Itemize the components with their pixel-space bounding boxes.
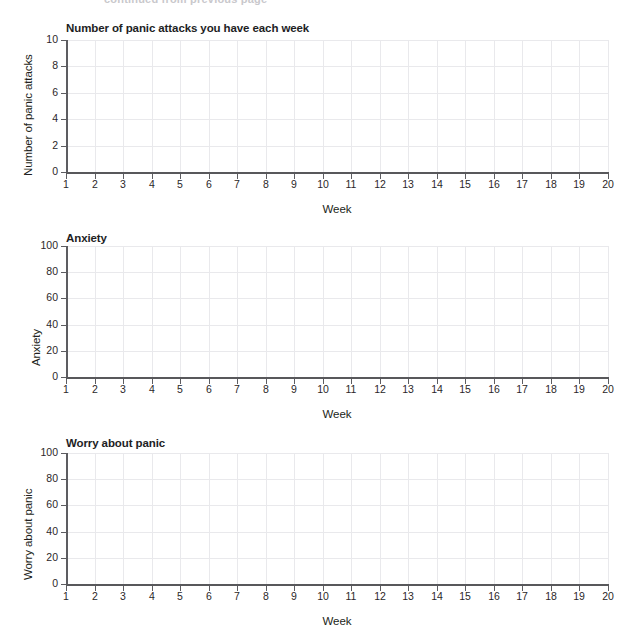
x-tick-label: 2	[83, 383, 107, 395]
y-tick-mark	[61, 532, 66, 533]
gridline-horizontal	[66, 40, 608, 41]
gridline-horizontal	[66, 532, 608, 533]
gridline-vertical	[437, 246, 438, 377]
y-tick-label: 0	[18, 577, 58, 589]
x-axis-label: Week	[66, 203, 608, 215]
gridline-vertical	[380, 453, 381, 584]
y-tick-mark	[61, 558, 66, 559]
x-tick-label: 8	[254, 178, 278, 190]
gridline-horizontal	[66, 272, 608, 273]
y-tick-mark	[61, 351, 66, 352]
x-tick-label: 15	[453, 590, 477, 602]
y-tick-mark	[61, 453, 66, 454]
gridline-vertical	[152, 40, 153, 172]
gridline-vertical	[408, 246, 409, 377]
gridline-vertical	[266, 40, 267, 172]
x-tick-label: 14	[425, 590, 449, 602]
gridline-vertical	[437, 40, 438, 172]
x-tick-label: 19	[567, 590, 591, 602]
panic-tracking-worksheet: { "page": { "clipped_header_text": "cont…	[0, 0, 629, 628]
x-tick-label: 7	[225, 178, 249, 190]
gridline-vertical	[551, 40, 552, 172]
gridline-vertical	[123, 40, 124, 172]
gridline-vertical	[522, 453, 523, 584]
gridline-vertical	[294, 453, 295, 584]
y-tick-mark	[61, 325, 66, 326]
gridline-vertical	[608, 246, 609, 377]
y-tick-label: 80	[18, 265, 58, 277]
y-tick-mark	[61, 93, 66, 94]
x-tick-label: 3	[111, 383, 135, 395]
y-tick-mark	[61, 246, 66, 247]
gridline-vertical	[180, 40, 181, 172]
y-axis-spine	[66, 40, 68, 174]
x-tick-label: 15	[453, 178, 477, 190]
x-tick-label: 6	[197, 383, 221, 395]
gridline-vertical	[266, 453, 267, 584]
plot-area	[66, 40, 608, 172]
gridline-horizontal	[66, 453, 608, 454]
y-tick-label: 100	[18, 239, 58, 251]
gridline-vertical	[180, 246, 181, 377]
y-tick-label: 10	[18, 33, 58, 45]
x-tick-label: 11	[339, 383, 363, 395]
y-tick-mark	[61, 505, 66, 506]
gridline-vertical	[351, 246, 352, 377]
gridline-vertical	[237, 40, 238, 172]
gridline-vertical	[579, 246, 580, 377]
gridline-vertical	[294, 40, 295, 172]
gridline-vertical	[494, 40, 495, 172]
gridline-vertical	[465, 246, 466, 377]
gridline-vertical	[123, 246, 124, 377]
chart-title: Number of panic attacks you have each we…	[66, 22, 309, 34]
x-tick-label: 5	[168, 178, 192, 190]
x-tick-label: 16	[482, 590, 506, 602]
gridline-vertical	[323, 40, 324, 172]
gridline-vertical	[237, 453, 238, 584]
y-tick-label: 0	[18, 370, 58, 382]
gridline-horizontal	[66, 298, 608, 299]
gridline-vertical	[294, 246, 295, 377]
gridline-vertical	[551, 453, 552, 584]
x-tick-label: 8	[254, 383, 278, 395]
clipped-header-text: continued from previous page	[104, 0, 404, 5]
x-tick-label: 20	[596, 178, 620, 190]
x-tick-label: 12	[368, 590, 392, 602]
gridline-horizontal	[66, 146, 608, 147]
y-tick-label: 4	[18, 112, 58, 124]
gridline-vertical	[180, 453, 181, 584]
x-tick-label: 2	[83, 590, 107, 602]
y-tick-label: 40	[18, 318, 58, 330]
gridline-vertical	[437, 453, 438, 584]
x-tick-label: 17	[510, 178, 534, 190]
x-tick-label: 17	[510, 590, 534, 602]
gridline-vertical	[152, 246, 153, 377]
x-tick-label: 10	[311, 590, 335, 602]
y-tick-mark	[61, 66, 66, 67]
y-tick-mark	[61, 272, 66, 273]
gridline-horizontal	[66, 479, 608, 480]
x-tick-label: 16	[482, 383, 506, 395]
x-tick-label: 19	[567, 178, 591, 190]
x-tick-label: 19	[567, 383, 591, 395]
gridline-vertical	[266, 246, 267, 377]
y-axis-spine	[66, 453, 68, 586]
y-tick-label: 60	[18, 498, 58, 510]
x-tick-label: 11	[339, 590, 363, 602]
x-tick-label: 10	[311, 383, 335, 395]
gridline-horizontal	[66, 351, 608, 352]
x-axis-spine	[66, 172, 609, 174]
gridline-vertical	[123, 453, 124, 584]
x-tick-label: 16	[482, 178, 506, 190]
gridline-vertical	[351, 40, 352, 172]
y-tick-mark	[61, 119, 66, 120]
x-tick-label: 8	[254, 590, 278, 602]
gridline-vertical	[237, 246, 238, 377]
x-tick-label: 13	[396, 178, 420, 190]
x-axis-label: Week	[66, 615, 608, 627]
gridline-vertical	[408, 453, 409, 584]
y-tick-label: 8	[18, 59, 58, 71]
x-tick-label: 3	[111, 590, 135, 602]
x-tick-label: 15	[453, 383, 477, 395]
gridline-horizontal	[66, 119, 608, 120]
